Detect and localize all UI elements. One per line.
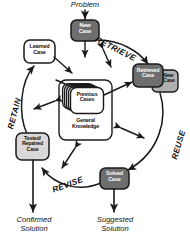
node-box-tested-case [16,133,49,160]
suggested-line2: Solution [85,225,145,234]
io-label-suggested-solution: Suggested Solution [85,216,145,233]
node-box-retrieved-case [133,64,163,87]
link-learned-knowledge [54,57,72,73]
io-problem-line1: Problem [71,0,99,9]
radial-arrow-reuse [121,128,144,138]
radial-arrow-retrieve [103,49,111,67]
confirmed-line2: Solution [4,225,64,234]
io-label-confirmed-solution: Confirmed Solution [4,216,64,233]
radial-arrow-revise [62,148,75,168]
arc-retain [22,66,34,134]
diagram-vector-layer [0,0,190,243]
io-label-problem: Problem [55,1,115,10]
node-box-learned-case [24,40,55,63]
radial-arrow-retain [34,101,55,109]
cbr-cycle-diagram: Problem New Case Retrieved Case New Case… [0,0,190,243]
node-box-solved-case [100,168,129,189]
previous-cases-stack [63,84,104,114]
node-box-new-case-top [71,20,99,41]
arc-reuse [128,93,163,170]
